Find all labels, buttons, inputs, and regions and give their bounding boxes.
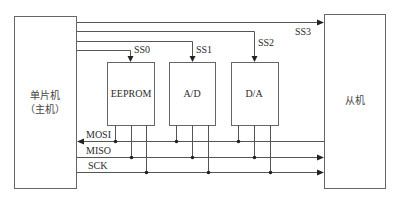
junction-dot [191,156,195,160]
ss2-label: SS2 [258,37,274,48]
junction-dot [207,171,211,175]
junction-dot [145,171,149,175]
junction-dot [269,171,273,175]
arrow-down-icon [190,56,196,62]
junction-dot [175,140,179,144]
miso-label: MISO [86,145,111,156]
junction-dot [253,156,257,160]
ss3-line: SS3 [77,20,324,38]
sck-bus: SCK [77,160,324,176]
arrow-right-icon [317,170,324,176]
slave-box: 从机 [325,15,386,189]
ss1-label: SS1 [196,44,212,55]
master-sublabel: （主机） [25,103,65,115]
arrow-right-icon [317,155,324,161]
sck-label: SCK [88,160,108,171]
miso-bus: MISO [77,145,324,161]
junction-dot [114,140,118,144]
eeprom-label: EEPROM [111,88,152,99]
da-label: D/A [245,88,263,99]
ss2-line: SS2 [77,32,274,63]
device-da: D/A [232,63,279,126]
slave-label: 从机 [345,94,365,106]
ss3-label: SS3 [295,26,311,37]
junction-dot [130,156,134,160]
arrow-down-icon [128,56,134,62]
ad-label: A/D [183,88,200,99]
master-label: 单片机 [30,89,60,101]
ss0-line: SS0 [77,44,150,62]
arrow-left-icon [77,139,84,145]
device-pins [116,125,271,173]
spi-diagram: 单片机 （主机） 从机 SS3 SS2 SS1 SS0 EEPROM A/D [0,0,397,200]
mosi-label: MOSI [86,129,111,140]
device-ad: A/D [170,63,216,126]
arrow-down-icon [252,56,258,62]
arrow-right-icon [317,20,324,26]
master-box: 单片机 （主机） [15,17,77,189]
junction-dot [237,140,241,144]
ss0-label: SS0 [134,44,150,55]
device-eeprom: EEPROM [108,63,155,126]
